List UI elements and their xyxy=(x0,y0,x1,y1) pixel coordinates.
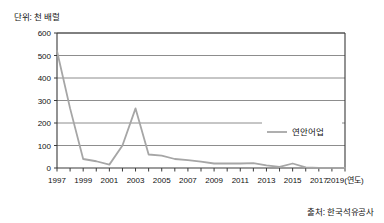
x-tick-labels: 1997199920012003200520072009201120132015… xyxy=(48,176,364,185)
y-tick-labels: 0100200300400500600 xyxy=(38,29,52,173)
svg-text:2009: 2009 xyxy=(205,176,223,185)
svg-text:1999: 1999 xyxy=(74,176,92,185)
svg-text:2005: 2005 xyxy=(153,176,171,185)
svg-text:400: 400 xyxy=(38,74,52,83)
svg-text:200: 200 xyxy=(38,119,52,128)
svg-text:2001: 2001 xyxy=(100,176,118,185)
svg-text:2007: 2007 xyxy=(179,176,197,185)
svg-text:600: 600 xyxy=(38,29,52,38)
chart-legend: 연안어업 xyxy=(262,122,342,142)
chart-plot-area: 0100200300400500600 19971999200120032005… xyxy=(38,29,364,185)
svg-text:2011: 2011 xyxy=(232,176,250,185)
svg-text:100: 100 xyxy=(38,142,52,151)
svg-text:300: 300 xyxy=(38,97,52,106)
svg-text:2019(연도): 2019(연도) xyxy=(326,176,363,185)
svg-text:2003: 2003 xyxy=(127,176,145,185)
chart-figure: 단위: 천 배럴 0100200300400500600 19971999200… xyxy=(0,0,384,223)
svg-text:0: 0 xyxy=(47,164,52,173)
source-label: 출처: 한국석유공사 xyxy=(307,205,374,217)
line-chart: 0100200300400500600 19971999200120032005… xyxy=(0,0,384,223)
legend-label: 연안어업 xyxy=(292,127,324,137)
svg-text:500: 500 xyxy=(38,52,52,61)
svg-text:2015: 2015 xyxy=(284,176,302,185)
svg-text:1997: 1997 xyxy=(48,176,66,185)
svg-text:2013: 2013 xyxy=(258,176,276,185)
